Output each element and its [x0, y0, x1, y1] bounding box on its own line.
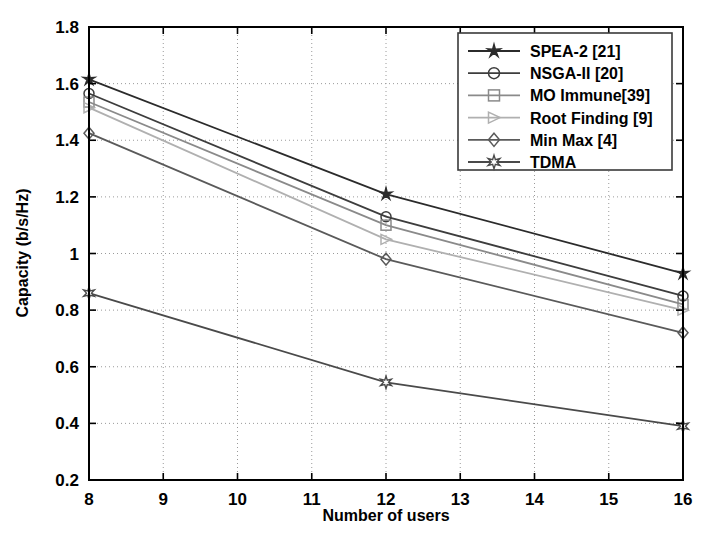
x-tick-label: 9 — [159, 490, 168, 509]
y-tick-label: 1 — [70, 245, 79, 264]
y-tick-label: 0.8 — [55, 301, 79, 320]
y-tick-label: 1.4 — [55, 131, 79, 150]
y-tick-label: 1.2 — [55, 188, 79, 207]
figure-canvas: 89101112131415160.20.40.60.811.21.41.61.… — [0, 0, 705, 545]
y-tick-label: 1.6 — [55, 75, 79, 94]
y-tick-label: 0.4 — [55, 414, 79, 433]
x-tick-label: 14 — [525, 490, 544, 509]
legend[interactable]: SPEA-2 [21]NSGA-II [20]MO Immune[39]Root… — [458, 33, 672, 171]
y-tick-label: 0.6 — [55, 358, 79, 377]
legend-label: NSGA-II [20] — [530, 65, 623, 82]
x-tick-label: 13 — [451, 490, 470, 509]
x-tick-label: 15 — [599, 490, 618, 509]
x-tick-label: 16 — [674, 490, 693, 509]
legend-label: Min Max [4] — [530, 132, 617, 149]
line-chart: 89101112131415160.20.40.60.811.21.41.61.… — [0, 0, 705, 545]
marker-star — [380, 188, 392, 199]
legend-label: MO Immune[39] — [530, 87, 650, 104]
legend-label: TDMA — [530, 154, 577, 171]
x-tick-label: 10 — [228, 490, 247, 509]
x-tick-label: 11 — [303, 490, 321, 509]
x-axis-title: Number of users — [322, 507, 449, 524]
y-axis-title: Capacity (b/s/Hz) — [14, 189, 31, 318]
x-tick-label: 8 — [84, 490, 93, 509]
y-tick-label: 1.8 — [55, 18, 79, 37]
legend-label: SPEA-2 [21] — [530, 43, 621, 60]
legend-label: Root Finding [9] — [530, 110, 653, 127]
y-tick-label: 0.2 — [55, 471, 79, 490]
